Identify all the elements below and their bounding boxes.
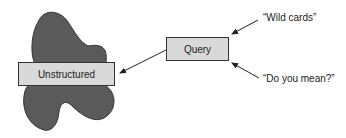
arrow-wild-cards-to-query <box>232 20 258 34</box>
do-you-mean-annotation: “Do you mean?” <box>263 73 335 84</box>
wild-cards-annotation: “Wild cards” <box>263 12 316 23</box>
unstructured-label: Unstructured <box>38 69 95 80</box>
arrow-query-to-unstructured <box>120 50 166 73</box>
unstructured-box: Unstructured <box>18 62 115 86</box>
query-box: Query <box>166 37 229 61</box>
arrow-do-you-mean-to-query <box>232 63 259 78</box>
query-label: Query <box>184 44 211 55</box>
